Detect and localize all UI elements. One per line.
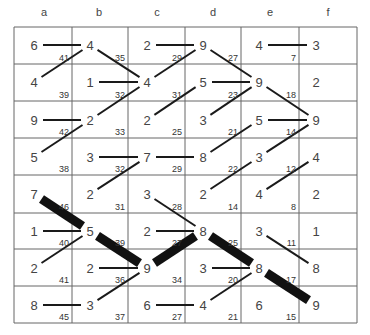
node-value: 4 [86,38,93,53]
node-value: 9 [312,298,319,313]
node-value: 3 [199,261,206,276]
edge-weight: 21 [228,127,238,137]
edge-weight: 39 [115,238,125,248]
column-label-a: a [41,6,48,18]
edge-weight: 31 [172,90,182,100]
node-value: 4 [312,150,319,165]
node-value: 8 [199,150,206,165]
edge-weight: 27 [172,312,182,322]
node-value: 2 [143,224,150,239]
node-value: 2 [312,187,319,202]
node-value: 8 [199,224,206,239]
edge-weight: 39 [59,90,69,100]
edge-weight: 34 [172,275,182,285]
edge-weight: 40 [59,238,69,248]
node-value: 2 [143,38,150,53]
node-value: 3 [86,150,93,165]
node-value: 9 [143,261,150,276]
node-value: 9 [312,113,319,128]
node-value: 2 [86,187,93,202]
node-value: 2 [143,113,150,128]
edge-weight: 46 [59,202,69,212]
edge-weight: 17 [286,275,296,285]
node-value: 2 [86,113,93,128]
node-value: 1 [86,75,93,90]
edge-weight: 37 [115,312,125,322]
node-value: 9 [30,113,37,128]
node-value: 1 [312,224,319,239]
edge-weight: 20 [228,275,238,285]
edge-weight: 22 [228,164,238,174]
node-value: 2 [30,261,37,276]
edge-weight: 18 [286,90,296,100]
edge-weight: 14 [228,202,238,212]
column-labels: a b c d e f [41,6,331,18]
node-value: 6 [143,298,150,313]
edge-weight: 33 [115,127,125,137]
edge-weight: 42 [59,127,69,137]
node-value: 4 [255,187,262,202]
column-label-e: e [267,6,273,18]
edge-weight: 29 [172,164,182,174]
edge-weight: 36 [115,275,125,285]
edge-weight: 32 [115,164,125,174]
node-value: 7 [143,150,150,165]
edge-weight: 14 [286,127,296,137]
edge-weight: 8 [291,202,296,212]
node-value: 9 [199,38,206,53]
edge-weight: 41 [59,53,69,63]
node-value: 2 [86,261,93,276]
node-value: 6 [30,38,37,53]
edge-weight: 23 [228,90,238,100]
node-value: 3 [86,298,93,313]
node-value: 4 [143,75,150,90]
edge-weight: 25 [228,238,238,248]
edge-weight: 35 [115,53,125,63]
edge-weight: 27 [228,53,238,63]
edge-weight: 31 [115,202,125,212]
node-value: 5 [255,113,262,128]
node-value: 5 [30,150,37,165]
edge-weight: 32 [115,90,125,100]
edge-weight: 27 [172,238,182,248]
edge-weight: 15 [286,312,296,322]
edge-weight: 29 [172,53,182,63]
node-value: 3 [312,38,319,53]
node-value: 5 [86,224,93,239]
node-value: 3 [143,187,150,202]
edge-weight: 28 [172,202,182,212]
node-value: 3 [255,150,262,165]
edge-weight: 41 [59,275,69,285]
edge-weight: 25 [172,127,182,137]
node-value: 4 [199,298,206,313]
column-label-d: d [210,6,216,18]
node-value: 8 [312,261,319,276]
edge-weight: 7 [291,53,296,63]
node-value: 7 [30,187,37,202]
node-value: 5 [199,75,206,90]
node-value: 6 [255,298,262,313]
node-value: 3 [199,113,206,128]
node-value: 4 [30,75,37,90]
column-label-c: c [154,6,160,18]
edge-weight: 11 [287,238,296,248]
node-value: 9 [255,75,262,90]
edge-weight: 38 [59,164,69,174]
column-label-b: b [96,6,102,18]
edge-weight: 45 [59,312,69,322]
node-value: 4 [255,38,262,53]
node-value: 1 [30,224,37,239]
node-value: 8 [30,298,37,313]
grid-diagram: a b c d e f 4135292773932312318423325211… [0,0,370,335]
node-value: 3 [255,224,262,239]
node-value: 2 [312,75,319,90]
column-label-f: f [326,6,330,18]
edge-weight: 12 [286,164,296,174]
node-value: 2 [199,187,206,202]
edge-weight: 21 [228,312,238,322]
node-value: 8 [255,261,262,276]
